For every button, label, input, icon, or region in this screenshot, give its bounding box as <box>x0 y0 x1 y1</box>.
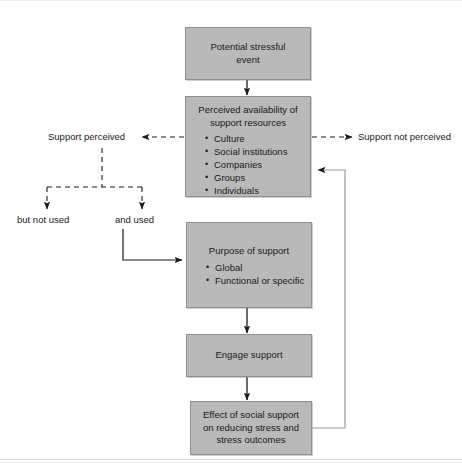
label-but-not-used: but not used <box>17 214 69 226</box>
box-resources-line2: support resources <box>195 117 301 130</box>
label-and-used: and used <box>115 214 154 226</box>
arrow-feedback-effect-to-resources <box>312 170 345 428</box>
list-item: Social institutions <box>205 145 305 158</box>
box-effect-line1: Effect of social support <box>203 409 299 422</box>
list-item: Groups <box>205 171 305 184</box>
box-resources-line1: Perceived availability of <box>195 104 301 117</box>
box-effect-of-social-support: Effect of social support on reducing str… <box>190 401 312 455</box>
box-event-line2: event <box>211 54 286 67</box>
resources-bullet-list: Culture Social institutions Companies Gr… <box>191 132 305 197</box>
list-item: Individuals <box>205 184 305 197</box>
box-effect-line3: stress outcomes <box>203 434 299 447</box>
list-item: Companies <box>205 158 305 171</box>
label-support-perceived: Support perceived <box>48 131 125 143</box>
list-item: Global <box>206 261 306 274</box>
box-purpose-title: Purpose of support <box>192 245 306 258</box>
box-potential-stressful-event: Potential stressful event <box>185 27 311 80</box>
list-item: Functional or specific <box>206 274 306 287</box>
box-effect-line2: on reducing stress and <box>203 422 299 435</box>
box-purpose-of-support: Purpose of support Global Functional or … <box>186 222 312 308</box>
box-engage-support: Engage support <box>186 334 312 377</box>
page-frame-bottom <box>0 459 462 460</box>
box-engage-title: Engage support <box>211 349 286 362</box>
label-support-not-perceived: Support not perceived <box>358 131 451 143</box>
page-frame-top <box>0 0 462 1</box>
arrow-and-used-to-purpose <box>123 229 182 260</box>
purpose-bullet-list: Global Functional or specific <box>192 261 306 287</box>
diagram-canvas: Potential stressful event Perceived avai… <box>0 0 462 463</box>
box-event-line1: Potential stressful <box>211 41 286 54</box>
box-perceived-availability: Perceived availability of support resour… <box>185 96 311 197</box>
list-item: Culture <box>205 132 305 145</box>
